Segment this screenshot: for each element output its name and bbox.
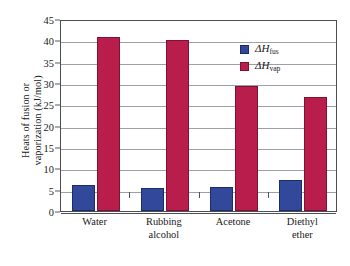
x-axis-separator (129, 192, 130, 198)
x-tick-label-line: Rubbing (129, 216, 198, 229)
y-tick-label: 5 (26, 185, 54, 196)
x-tick-label-acetone: Acetone (199, 216, 268, 229)
x-tick-label-line: Diethyl (268, 216, 337, 229)
legend-sub-vap: vap (269, 64, 280, 73)
x-axis-separator (268, 192, 269, 198)
x-tick-label-line: alcohol (129, 229, 198, 242)
legend-swatch-delta-h-fus (240, 45, 249, 54)
bar-delta-H-fus-rubbing-alcohol (141, 188, 164, 211)
bar-delta-H-vap-rubbing-alcohol (166, 40, 189, 211)
x-tick-label-line: Water (60, 216, 129, 229)
legend-symbol-vap: ΔH (255, 59, 269, 71)
x-tick-label-line: Acetone (199, 216, 268, 229)
y-tick-label: 0 (26, 207, 54, 218)
legend-symbol-fus: ΔH (255, 42, 269, 54)
x-tick-label-diethyl-ether: Diethylether (268, 216, 337, 241)
bar-delta-H-vap-diethyl-ether (304, 97, 327, 211)
bar-delta-H-fus-diethyl-ether (279, 180, 302, 211)
y-tick-label: 10 (26, 164, 54, 175)
y-tick-label: 45 (26, 15, 54, 26)
x-tick-label-rubbing-alcohol: Rubbingalcohol (129, 216, 198, 241)
x-tick-label-line: ether (268, 229, 337, 242)
y-tick-label: 40 (26, 36, 54, 47)
bar-delta-H-vap-acetone (235, 86, 258, 211)
x-tick-label-water: Water (60, 216, 129, 229)
bar-delta-H-vap-water (97, 37, 120, 211)
x-axis-separator (199, 192, 200, 198)
y-tick-label: 30 (26, 79, 54, 90)
gridline (61, 213, 336, 214)
bar-chart-figure: Heats of fusion or vaporization (kJ/mol)… (0, 0, 350, 266)
y-tick-label: 20 (26, 121, 54, 132)
legend-label-delta-h-vap: ΔHvap (255, 60, 280, 72)
x-axis-tick-labels: WaterRubbingalcoholAcetoneDiethylether (60, 216, 337, 262)
legend-swatch-delta-h-vap (240, 62, 249, 71)
y-tick-label: 25 (26, 100, 54, 111)
y-tick-label: 35 (26, 57, 54, 68)
y-tick-label: 15 (26, 143, 54, 154)
legend-label-delta-h-fus: ΔHfus (255, 43, 279, 55)
legend: ΔHfus ΔHvap (240, 42, 312, 76)
legend-item-delta-h-fus[interactable]: ΔHfus (240, 42, 312, 56)
y-axis-tick-labels: 051015202530354045 (26, 14, 54, 212)
legend-item-delta-h-vap[interactable]: ΔHvap (240, 59, 312, 73)
legend-sub-fus: fus (269, 47, 278, 56)
bar-delta-H-fus-water (72, 185, 95, 211)
bar-delta-H-fus-acetone (210, 187, 233, 211)
